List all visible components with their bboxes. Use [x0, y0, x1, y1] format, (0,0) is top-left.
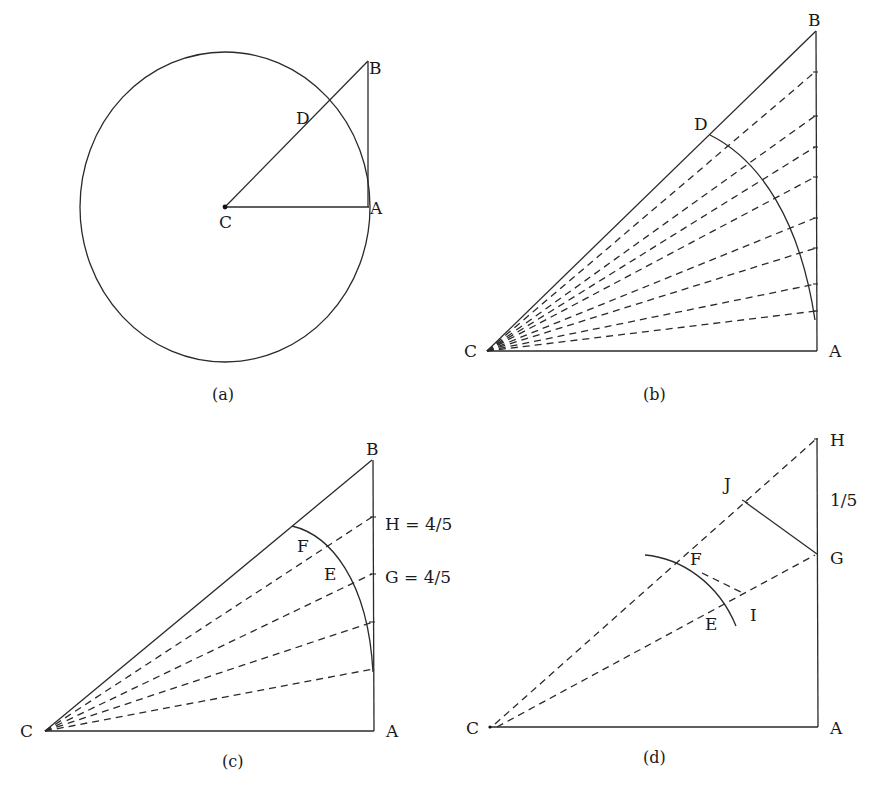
label-E: E: [324, 564, 336, 584]
panel-d: H J 1/5 F G E I C A (d): [466, 430, 857, 767]
label-C: C: [464, 341, 477, 361]
point-C: [488, 725, 491, 728]
segment-HA: [817, 438, 818, 727]
label-A: A: [828, 341, 842, 361]
center-point-C: [223, 205, 228, 210]
label-A: A: [369, 198, 383, 218]
label-G: G: [830, 548, 844, 568]
label-G: G = 4/5: [385, 567, 451, 587]
label-H: H: [830, 430, 845, 450]
panel-c: B F E H = 4/5 G = 4/5 C A (c): [20, 439, 452, 771]
dashed-CG: [497, 555, 815, 727]
label-I: I: [750, 605, 757, 625]
panel-b: B D C A (b): [464, 10, 842, 404]
label-H: H = 4/5: [385, 514, 452, 534]
segment-CB: [45, 460, 372, 731]
label-D: D: [694, 114, 708, 134]
caption-b: (b): [643, 385, 666, 404]
label-F: F: [297, 536, 309, 556]
label-A: A: [829, 718, 843, 738]
label-F: F: [690, 549, 702, 569]
dashed-rays: [45, 517, 373, 731]
dashed-FI: [702, 573, 745, 594]
label-C: C: [20, 721, 33, 741]
label-E: E: [705, 614, 717, 634]
label-J: J: [722, 474, 731, 494]
dashed-CH: [495, 440, 815, 724]
dashed-rays: [487, 72, 816, 351]
segment-AB: [816, 31, 817, 351]
segment-CB: [487, 31, 816, 351]
panel-a: B D C A (a): [80, 52, 383, 404]
tick-marks: [369, 517, 376, 622]
arc-DA: [710, 135, 815, 320]
label-D: D: [296, 108, 310, 128]
caption-c: (c): [222, 752, 243, 771]
geometry-figure: B D C A (a) B: [0, 0, 876, 798]
label-C: C: [466, 718, 479, 738]
caption-d: (d): [643, 748, 666, 767]
label-B: B: [369, 58, 382, 78]
label-B: B: [366, 439, 379, 459]
caption-a: (a): [212, 385, 234, 404]
segment-CB: [225, 61, 368, 207]
segment-JG: [745, 502, 817, 554]
label-one-fifth: 1/5: [830, 490, 857, 510]
label-A: A: [385, 721, 399, 741]
label-C: C: [219, 212, 232, 232]
label-B: B: [808, 10, 821, 30]
segment-AB: [373, 460, 374, 731]
